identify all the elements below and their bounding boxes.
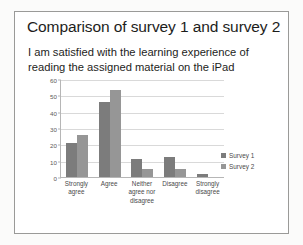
y-axis-tick-label: 40 [50, 109, 57, 116]
bar[interactable] [175, 169, 186, 177]
x-axis-label: Strongly disagree [191, 180, 224, 205]
bar[interactable] [164, 157, 175, 177]
x-axis-label: Agree [93, 180, 126, 205]
bar-group [94, 80, 127, 177]
y-axis-tick-label: 10 [50, 158, 57, 165]
bar-group [191, 80, 224, 177]
bar[interactable] [110, 90, 121, 177]
bar-chart: 0102030405060 Strongly agreeAgreeNeither… [22, 76, 284, 228]
y-axis-tick-label: 30 [50, 126, 57, 133]
bar[interactable] [77, 135, 88, 177]
legend-swatch-icon [221, 164, 226, 169]
legend-swatch-icon [221, 153, 226, 158]
y-axis-tick-label: 60 [50, 77, 57, 84]
x-axis-labels: Strongly agreeAgreeNeither agree nor dis… [60, 180, 224, 205]
bar[interactable] [131, 159, 142, 177]
chart-question-text: I am satisfied with the learning experie… [28, 45, 278, 74]
x-axis-label: Neither agree nor disagree [126, 180, 159, 205]
slide-frame: Comparison of survey 1 and survey 2 I am… [14, 11, 289, 234]
legend-label: Survey 1 [229, 152, 254, 159]
page-title: Comparison of survey 1 and survey 2 [27, 18, 279, 36]
y-axis-tick-label: 50 [50, 93, 57, 100]
legend-item[interactable]: Survey 2 [221, 163, 279, 170]
bar-group [159, 80, 192, 177]
y-axis-tick-mark [58, 178, 61, 179]
bar-group [61, 80, 94, 177]
y-axis-tick-label: 20 [50, 142, 57, 149]
bar[interactable] [142, 169, 153, 177]
bar[interactable] [197, 174, 208, 177]
x-axis-label: Strongly agree [60, 180, 93, 205]
bar[interactable] [66, 143, 77, 177]
x-axis-label: Disagree [158, 180, 191, 205]
chart-legend: Survey 1Survey 2 [221, 152, 279, 174]
legend-item[interactable]: Survey 1 [221, 152, 279, 159]
y-axis-tick-label: 0 [54, 175, 57, 182]
legend-label: Survey 2 [229, 163, 254, 170]
bar[interactable] [99, 102, 110, 177]
bar-group [126, 80, 159, 177]
plot-area: 0102030405060 [60, 80, 224, 178]
bar-groups [61, 80, 224, 177]
slide-image: Comparison of survey 1 and survey 2 I am… [0, 0, 303, 245]
